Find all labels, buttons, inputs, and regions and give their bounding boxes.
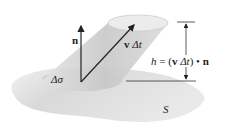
delta-sigma-text: Δσ [51, 73, 63, 85]
delta-sigma-label: Δσ [51, 74, 63, 85]
height-formula: h = (v Δt) • n [151, 56, 209, 67]
normal-label: n [72, 35, 78, 46]
velocity-v: v [124, 38, 130, 50]
velocity-delta-t: Δt [132, 38, 142, 50]
cylinder-top [108, 15, 168, 31]
velocity-label: v Δt [124, 39, 142, 50]
height-eq: = [159, 55, 165, 67]
height-h: h [151, 55, 157, 67]
height-dot: • [196, 55, 200, 67]
height-close: ) [190, 55, 194, 67]
height-dt: Δt [180, 55, 190, 67]
height-n: n [203, 55, 209, 67]
height-v: v [172, 55, 178, 67]
surface-label: S [163, 104, 169, 115]
